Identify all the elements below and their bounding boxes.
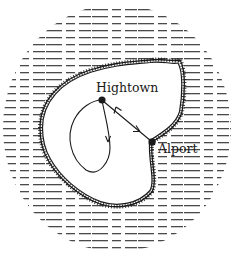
island-map: Hightown Alport bbox=[0, 0, 235, 256]
town-marker-icon bbox=[149, 139, 156, 146]
town-label-alport: Alport bbox=[157, 141, 198, 156]
town-label-hightown: Hightown bbox=[96, 80, 158, 95]
town-marker-icon bbox=[98, 96, 105, 103]
